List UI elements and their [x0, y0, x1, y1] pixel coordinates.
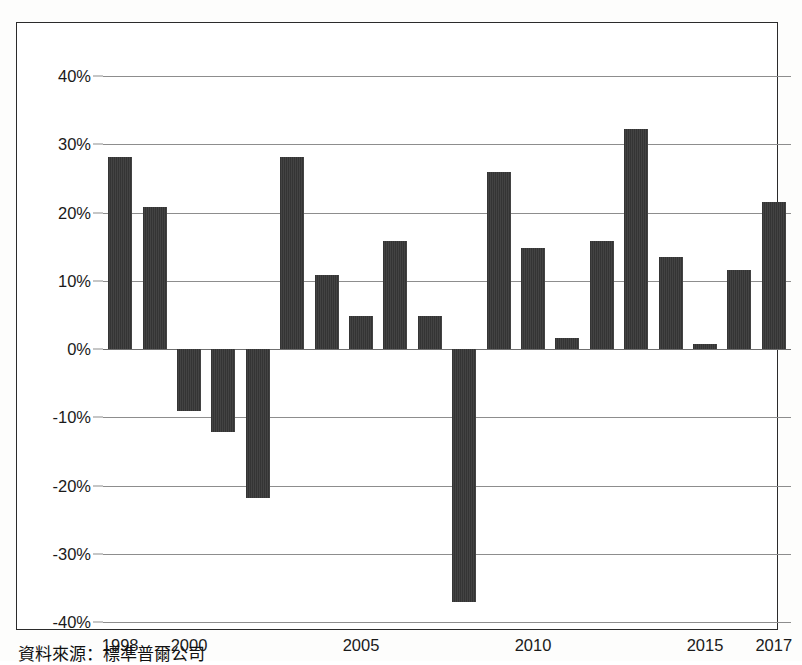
gridline-0: [103, 349, 791, 350]
y-axis-label-0: 0%: [25, 341, 91, 358]
gridline-30: [103, 144, 791, 145]
y-axis-tickmark--30: [93, 553, 103, 554]
y-axis-label--30: -30%: [25, 546, 91, 563]
gridline--40: [103, 622, 791, 623]
y-axis-tickmark--20: [93, 485, 103, 486]
bar-2006: [383, 241, 407, 349]
bar-2010: [521, 248, 545, 349]
bar-2009: [487, 172, 511, 349]
gridline-40: [103, 76, 791, 77]
gridline--20: [103, 486, 791, 487]
y-axis-tickmark-10: [93, 280, 103, 281]
bar-2011: [555, 338, 579, 349]
y-axis-tickmark-40: [93, 76, 103, 77]
gridline--30: [103, 554, 791, 555]
y-axis-label-10: 10%: [25, 273, 91, 290]
chart-frame: 40%30%20%10%0%-10%-20%-30%-40% 199820002…: [16, 22, 778, 630]
bar-2016: [727, 270, 751, 349]
y-axis-label--40: -40%: [25, 614, 91, 631]
bar-2004: [315, 275, 339, 349]
bar-2008: [452, 349, 476, 602]
gridline-20: [103, 213, 791, 214]
bar-2012: [590, 241, 614, 349]
gridline-10: [103, 281, 791, 282]
y-axis-tickmark-30: [93, 144, 103, 145]
bar-2014: [659, 257, 683, 349]
bar-2001: [211, 349, 235, 432]
bar-2017: [762, 202, 786, 349]
bar-2002: [246, 349, 270, 498]
y-axis-tickmark-0: [93, 349, 103, 350]
bar-1999: [143, 207, 167, 349]
y-axis-label-30: 30%: [25, 136, 91, 153]
bar-2015: [693, 344, 717, 349]
x-axis-label-2010: 2010: [515, 636, 552, 655]
bar-1998: [108, 157, 132, 349]
x-axis-label-2017: 2017: [755, 636, 792, 655]
y-axis-label--20: -20%: [25, 477, 91, 494]
y-axis-tickmark-20: [93, 212, 103, 213]
gridline--10: [103, 417, 791, 418]
y-axis-tickmark--40: [93, 622, 103, 623]
bar-2003: [280, 157, 304, 349]
bar-2000: [177, 349, 201, 411]
bar-2005: [349, 316, 373, 349]
source-caption: 資料來源：標準普爾公司: [18, 640, 518, 665]
plot-area: 40%30%20%10%0%-10%-20%-30%-40% 199820002…: [103, 63, 791, 609]
bar-2007: [418, 316, 442, 349]
y-axis-tickmark--10: [93, 417, 103, 418]
y-axis-label-40: 40%: [25, 68, 91, 85]
y-axis-label--10: -10%: [25, 409, 91, 426]
y-axis-label-20: 20%: [25, 204, 91, 221]
bar-2013: [624, 129, 648, 349]
x-axis-label-2015: 2015: [687, 636, 724, 655]
